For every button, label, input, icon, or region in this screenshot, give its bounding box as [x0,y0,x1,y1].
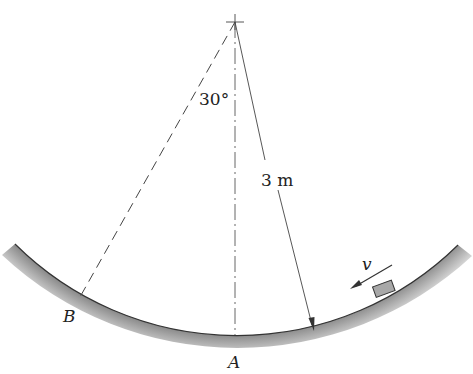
velocity-label: v [362,254,372,274]
point-b-label: B [62,306,76,326]
velocity-arrowhead [350,280,362,289]
point-a-label: A [226,352,240,372]
radius-dimension-line-lower [278,190,312,325]
diagram-canvas: 30° 3 m v B A [0,0,473,374]
radius-label: 3 m [261,170,293,190]
radius-dimension-line [235,22,265,160]
angle-label: 30° [199,89,229,109]
track-ground [2,244,472,348]
radius-line-to-b [80,22,235,297]
